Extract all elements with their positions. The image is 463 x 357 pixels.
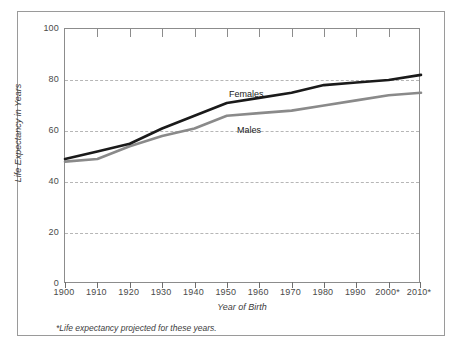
life-expectancy-chart-figure: Life Expectancy in Years 0 20 40 60 80 1…	[0, 0, 463, 357]
x-tick-1920: 1920	[118, 287, 139, 297]
y-tick-40: 40	[49, 176, 59, 186]
x-tick-1930: 1930	[151, 287, 172, 297]
x-tick-1900: 1900	[54, 287, 75, 297]
x-tick-2000: 2000*	[375, 287, 400, 297]
x-tick-1980: 1980	[312, 287, 333, 297]
y-tick-60: 60	[49, 125, 59, 135]
x-tick-1950: 1950	[215, 287, 236, 297]
series-lines	[65, 29, 421, 284]
x-axis-title: Year of Birth	[64, 302, 420, 312]
x-tick-1940: 1940	[183, 287, 204, 297]
x-axis-tick-labels: 1900 1910 1920 1930 1940 1950 1960 1970 …	[64, 287, 420, 301]
x-tick-1910: 1910	[86, 287, 107, 297]
chart-footnote: *Life expectancy projected for these yea…	[56, 323, 217, 333]
series-label-females: Females	[229, 89, 264, 99]
plot-area: Females Males	[64, 28, 420, 283]
y-tick-20: 20	[49, 227, 59, 237]
x-tick-1970: 1970	[280, 287, 301, 297]
x-tick-1990: 1990	[345, 287, 366, 297]
y-axis-title: Life Expectancy in Years	[13, 53, 23, 213]
females-line	[65, 75, 421, 159]
y-tick-100: 100	[43, 23, 59, 33]
series-label-males: Males	[237, 125, 261, 135]
y-axis-tick-labels: 0 20 40 60 80 100	[32, 28, 59, 283]
x-tick-1960: 1960	[248, 287, 269, 297]
x-tick-2010: 2010*	[407, 287, 432, 297]
y-tick-80: 80	[49, 74, 59, 84]
